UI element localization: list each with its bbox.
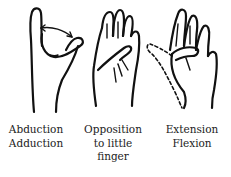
opposition-hand-illustration [88,0,148,112]
caption-line: Extension [160,123,224,137]
abduction-adduction-hand-illustration [22,0,90,118]
caption-line: Abduction [4,123,68,137]
caption-line: Adduction [4,137,68,151]
caption-line: finger [80,150,146,164]
caption-line: Opposition [80,123,146,137]
caption-extension-flexion: Extension Flexion [160,123,224,150]
caption-opposition: Opposition to little finger [80,123,146,164]
caption-abduction-adduction: Abduction Adduction [4,123,68,150]
extension-flexion-hand-illustration [144,0,224,112]
caption-line: Flexion [160,137,224,151]
thumb-movements-figure: Abduction Adduction Opposition to little… [0,0,231,177]
caption-line: to little [80,137,146,151]
